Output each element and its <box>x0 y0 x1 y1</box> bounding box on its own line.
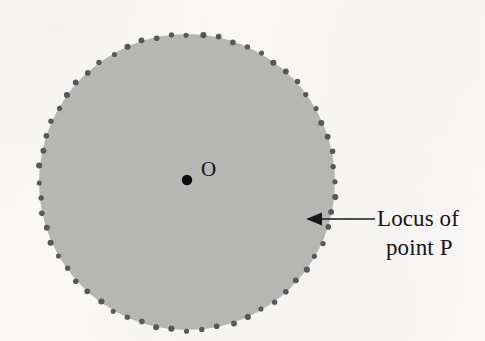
locus-dot <box>320 241 325 246</box>
locus-dot <box>73 80 79 86</box>
locus-dot <box>318 120 324 126</box>
locus-dot <box>272 300 277 305</box>
locus-dot <box>325 134 331 140</box>
locus-dot <box>304 267 310 273</box>
locus-dot <box>85 70 91 76</box>
locus-dot <box>330 149 336 155</box>
locus-dot <box>39 211 45 217</box>
locus-dot <box>64 92 70 98</box>
locus-dot <box>111 309 116 314</box>
locus-dot <box>84 288 90 294</box>
locus-dot <box>65 265 70 270</box>
locus-dot <box>332 194 338 200</box>
locus-dot <box>98 298 104 304</box>
locus-dot <box>44 225 50 231</box>
locus-dot <box>214 323 220 329</box>
locus-dot <box>125 314 130 319</box>
locus-dot <box>168 326 174 332</box>
locus-dot <box>40 148 46 154</box>
center-point-group <box>182 175 192 185</box>
figure-canvas: O Locus ofpoint P <box>0 0 485 341</box>
locus-dot <box>230 40 236 46</box>
locus-dot <box>332 179 337 184</box>
locus-dot <box>259 50 264 55</box>
locus-dot <box>184 329 189 334</box>
locus-callout-line-2: point P <box>377 234 459 263</box>
locus-dot <box>36 162 42 168</box>
locus-dot <box>112 52 117 57</box>
locus-dot <box>48 240 54 246</box>
locus-dot <box>200 32 206 38</box>
locus-dot <box>57 106 62 111</box>
locus-dot <box>270 60 276 66</box>
locus-dot <box>44 133 50 139</box>
locus-dot <box>312 254 317 259</box>
locus-dot <box>73 278 79 284</box>
locus-dot <box>303 92 308 97</box>
locus-dot <box>96 60 101 65</box>
locus-dot <box>56 253 61 258</box>
locus-dot <box>154 35 160 41</box>
locus-dot <box>314 106 319 111</box>
locus-dot <box>330 164 335 169</box>
center-point-label: O <box>201 159 216 180</box>
locus-dot <box>139 37 145 43</box>
locus-dot <box>283 69 289 75</box>
locus-dot <box>216 34 222 40</box>
locus-dot <box>199 327 204 332</box>
locus-dot <box>169 32 174 37</box>
locus-dot <box>245 314 251 320</box>
locus-dot <box>39 195 44 200</box>
locus-dot <box>325 224 331 230</box>
locus-diagram-svg <box>0 0 485 341</box>
locus-dot <box>328 209 334 215</box>
locus-dot <box>245 44 250 49</box>
locus-dot <box>295 79 301 85</box>
locus-callout-line-1: Locus of <box>377 206 459 231</box>
locus-dot <box>37 180 42 185</box>
center-point-o <box>182 175 192 185</box>
locus-dot <box>258 307 263 312</box>
locus-dot <box>283 289 289 295</box>
locus-dot <box>48 118 53 123</box>
locus-dot <box>139 319 145 325</box>
locus-dot <box>153 324 159 330</box>
locus-dot <box>293 277 299 283</box>
locus-dot <box>231 321 237 327</box>
locus-callout-label: Locus ofpoint P <box>377 205 459 262</box>
locus-dot <box>184 33 189 38</box>
locus-dot <box>125 44 131 50</box>
